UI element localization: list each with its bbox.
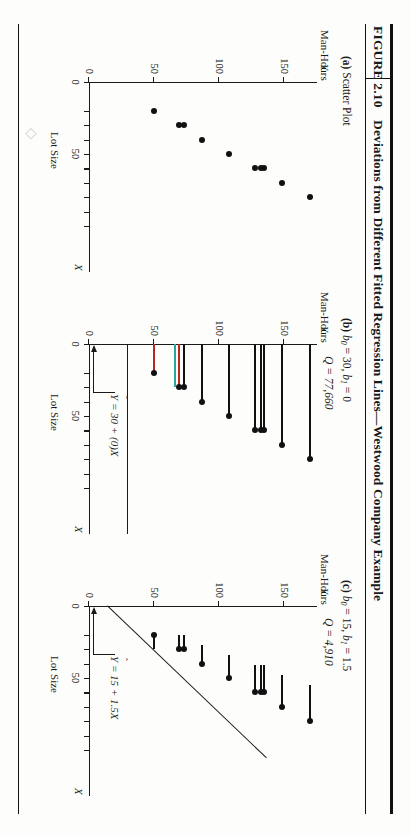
figure-label: FIGURE 2.10 [371, 26, 386, 108]
deviation-segment [153, 344, 155, 373]
deviation-segment [178, 344, 180, 387]
data-point [181, 646, 187, 652]
panel-c-x-symbol: X [73, 788, 85, 795]
title-rule-top [390, 24, 393, 814]
panel-c-callout-arrowhead [91, 607, 97, 614]
panel-b-caption-text: b0 = 30, b1 = 0 [341, 335, 353, 402]
panel-c-caption: (c) b0 = 15, b1 = 1.5 [339, 580, 353, 671]
panel-b-xlabel-50: 50 [70, 411, 81, 422]
panel-c-ylabel-100: 100 [214, 582, 225, 598]
deviation-segment [260, 344, 262, 430]
panel-b-b1-value: 0 [341, 396, 353, 402]
panel-a-xtick-50 [84, 154, 90, 155]
panel-b-b0-value: 30 [341, 357, 353, 369]
panel-c-y-symbol: Y [319, 588, 331, 594]
data-point [307, 718, 313, 724]
panel-b-fitted-line [127, 344, 128, 534]
deviation-segment [264, 344, 266, 430]
panel-a-caption: (a) Scatter Plot [341, 56, 353, 126]
panel-b-xtick-50 [84, 416, 90, 417]
data-point [199, 137, 205, 143]
data-point [151, 108, 157, 114]
data-point [258, 165, 264, 171]
panel-b-y-symbol: Y [319, 326, 331, 332]
panel-a-xtick-minor-1 [84, 111, 90, 112]
figure-canvas: FIGURE 2.10 Deviations from Different Fi… [0, 0, 411, 836]
panel-a-xlabel-50: 50 [70, 149, 81, 160]
panel-b-ylabel-100: 100 [214, 320, 225, 336]
panel-c-xtick-50 [84, 678, 90, 679]
panel-b-xtick-minor-6 [84, 459, 90, 460]
deviation-segment [309, 685, 311, 721]
panel-c-x-units: Lot Size [49, 656, 61, 693]
panel-c-y-units: Man-Hours [319, 554, 331, 605]
panel-b-xtick-minor-2 [84, 387, 90, 388]
panel-a-xtick-minor-2 [84, 125, 90, 126]
panel-c-xtick-minor-3 [84, 664, 90, 665]
panel-b-ylabel-150: 150 [279, 320, 290, 336]
panel-a-y-symbol: Y [319, 64, 331, 70]
panel-a-ylabel-50: 50 [149, 64, 160, 75]
panel-c-xtick-minor-2 [84, 649, 90, 650]
deviation-segment [260, 665, 262, 693]
deviation-segment [281, 344, 283, 445]
panel-c-tag: (c) [341, 580, 353, 593]
data-point [199, 661, 205, 667]
panel-b-xtick-minor-5 [84, 445, 90, 446]
panel-b-y-units: Man-Hours [319, 292, 331, 343]
panel-a-xtick-minor-7 [84, 212, 90, 213]
panel-b-callout-arrowhead [91, 345, 97, 352]
data-point [199, 399, 205, 405]
panel-c-xtick-minor-6 [84, 721, 90, 722]
deviation-segment [281, 675, 283, 707]
panel-a-xtick-0 [84, 82, 90, 83]
panel-a-y-units: Man-Hours [319, 30, 331, 81]
page-smudge: ◇ [23, 128, 41, 140]
panel-b-ylabel-0: 0 [84, 331, 95, 336]
panel-b-q-label: Q = 77,660 [323, 356, 335, 409]
panel-c-ytick-100 [218, 601, 219, 607]
panel-a-xtick-minor-5 [84, 183, 90, 184]
panel-c-callout-arm [93, 614, 94, 655]
panel-c-ytick-50 [153, 601, 154, 607]
data-point [307, 194, 313, 200]
data-point [279, 442, 285, 448]
panel-b-xtick-minor-1 [84, 373, 90, 374]
figure-page: FIGURE 2.10 Deviations from Different Fi… [0, 0, 411, 836]
data-point [151, 632, 157, 638]
data-point [226, 413, 232, 419]
panel-b-equation-label: ̂Y = 30 + (0)X [109, 394, 121, 457]
data-point [258, 689, 264, 695]
panel-c-xtick-minor-5 [84, 707, 90, 708]
data-point [279, 704, 285, 710]
panel-a-ytick-100 [218, 77, 219, 83]
panel-c-b1-value: 1.5 [341, 657, 353, 671]
deviation-segment [309, 344, 311, 459]
panel-c-xtick-minor-7 [84, 736, 90, 737]
panel-b-callout-arm [93, 352, 94, 393]
panel-c-ytick-150 [283, 601, 284, 607]
panel-a-x-units: Lot Size [49, 132, 61, 169]
panel-b-plot: 0 50 100 150 0 50 [89, 344, 317, 534]
panel-b-xtick-minor-4 [84, 430, 90, 431]
panel-c: (c) b0 = 15, b1 = 1.5 Man-Hours Y Q = 4,… [33, 552, 353, 810]
deviation-segment [264, 665, 266, 693]
panel-b-xtick-minor-8 [84, 488, 90, 489]
panel-b-tag: (b) [341, 318, 353, 332]
deviation-segment [201, 344, 203, 402]
panel-b-x-symbol: X [73, 526, 85, 533]
panel-b-ytick-100 [218, 339, 219, 345]
panel-b-xtick-minor-3 [84, 402, 90, 403]
data-point [181, 122, 187, 128]
panel-b-callout-stem [93, 392, 115, 393]
deviation-segment-highlight [175, 344, 177, 387]
panel-c-fitted-line [107, 606, 267, 759]
panel-a-xlabel-0: 0 [70, 79, 81, 84]
panel-a-xtick-minor-6 [84, 197, 90, 198]
panel-c-q-label: Q = 4,910 [323, 618, 335, 666]
panel-a: (a) Scatter Plot Man-Hours Y 0 50 100 [33, 28, 353, 286]
panel-c-equation-label: ̂Y = 15 + 1.5X [109, 656, 121, 719]
panel-a-ylabel-0: 0 [84, 69, 95, 74]
panel-c-ylabel-150: 150 [279, 582, 290, 598]
panel-c-xtick-minor-8 [84, 750, 90, 751]
